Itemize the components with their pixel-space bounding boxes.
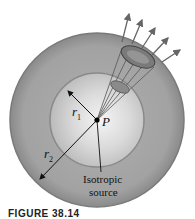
point-p [94,117,99,122]
label-isotropic: Isotropic [83,173,122,185]
label-p: P [102,114,110,130]
label-r2: r2 [44,146,53,164]
label-source: source [89,186,118,198]
figure-caption: FIGURE 38.14 [8,208,80,219]
label-r1: r1 [72,104,81,122]
